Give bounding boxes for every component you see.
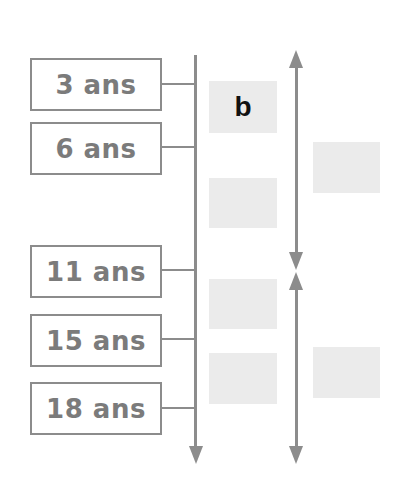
span-arrow-down-icon — [289, 446, 303, 464]
timeline-axis — [194, 55, 197, 447]
age-box-18: 18 ans — [30, 382, 162, 435]
age-label: 18 ans — [46, 394, 146, 424]
age-label: 11 ans — [46, 257, 146, 287]
age-label: 3 ans — [55, 70, 136, 100]
answer-slot-4[interactable] — [209, 353, 277, 404]
age-connector — [160, 338, 195, 340]
age-label: 15 ans — [46, 326, 146, 356]
age-connector — [160, 269, 195, 271]
age-connector — [160, 146, 195, 148]
answer-slot-2[interactable] — [209, 178, 277, 228]
age-box-11: 11 ans — [30, 245, 162, 298]
span-arrow-down-icon — [289, 252, 303, 270]
answer-slot-1[interactable]: b — [209, 81, 277, 133]
age-box-15: 15 ans — [30, 314, 162, 367]
period-slot-1[interactable] — [313, 142, 380, 193]
age-box-6: 6 ans — [30, 122, 162, 175]
timeline-arrow-down-icon — [189, 446, 203, 464]
age-label: 6 ans — [55, 134, 136, 164]
age-box-3: 3 ans — [30, 58, 162, 111]
age-connector — [160, 83, 195, 85]
age-connector — [160, 407, 195, 409]
period-slot-2[interactable] — [313, 347, 380, 398]
span-line-upper — [295, 66, 298, 256]
answer-slot-3[interactable] — [209, 279, 277, 329]
slot-label: b — [234, 91, 251, 123]
span-line-lower — [295, 288, 298, 448]
